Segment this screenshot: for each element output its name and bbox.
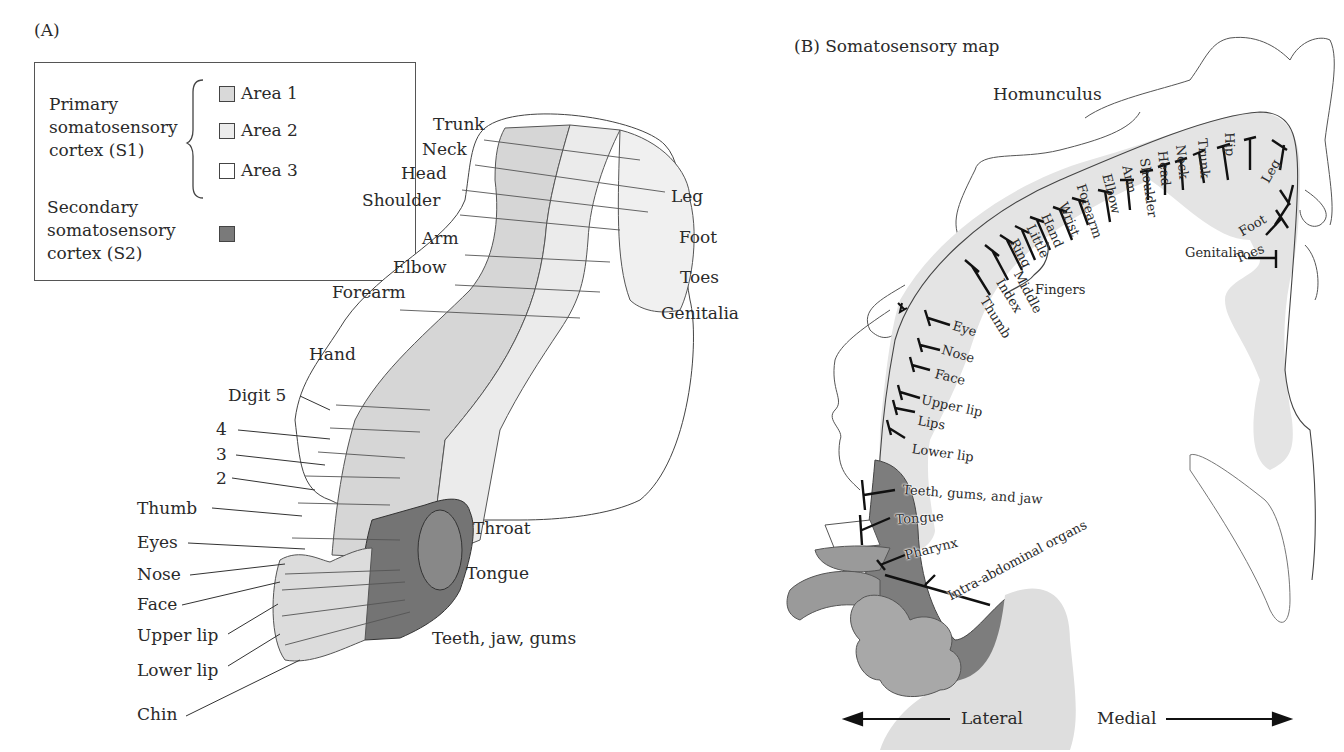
label-b-genitalia: Genitalia [1185,246,1245,259]
somatosensory-map-diagram [0,0,1344,752]
label-b-hip: Hip [1222,132,1238,156]
label-b-trunk: Trunk [1195,138,1213,178]
axis-medial-label: Medial [1097,710,1156,727]
axis-lateral-label: Lateral [961,710,1023,727]
label-b-fingers: Fingers [1035,283,1085,296]
